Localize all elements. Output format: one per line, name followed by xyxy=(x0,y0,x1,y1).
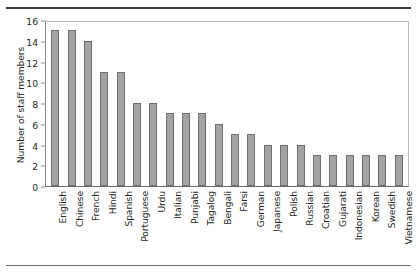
x-label-slot: Chinese xyxy=(62,189,78,265)
x-label-slot: Russian xyxy=(293,189,309,265)
bar[interactable] xyxy=(182,113,190,186)
x-axis-tick-label: Italian xyxy=(173,163,182,189)
x-label-slot: Korean xyxy=(359,189,375,265)
bar[interactable] xyxy=(215,124,223,186)
bar-chart-figure: Number of staff members 0246810121416 En… xyxy=(0,0,417,275)
bar[interactable] xyxy=(313,155,321,186)
x-axis-tick-label: Japanese xyxy=(272,150,281,189)
x-axis-tick-label: English xyxy=(58,159,67,189)
y-axis-tick-label: 10 xyxy=(26,78,38,89)
x-label-slot: Tagalog xyxy=(194,189,210,265)
x-axis-tick-label: Portuguese xyxy=(140,140,149,189)
bar[interactable] xyxy=(247,134,255,186)
x-axis-tick-label: Gujarati xyxy=(338,155,347,189)
bar[interactable] xyxy=(280,145,288,187)
x-label-slot: French xyxy=(79,189,95,265)
top-divider-rule xyxy=(6,7,411,9)
x-axis-tick-label: Croatian xyxy=(321,153,330,189)
x-axis-tick-label: French xyxy=(91,161,100,189)
x-axis-tick-label-text: Vietnamese xyxy=(404,191,413,244)
y-axis-tick-label: 14 xyxy=(26,36,38,47)
bar-slot xyxy=(162,22,178,186)
x-axis-tick-label: Punjabi xyxy=(190,158,199,189)
x-label-slot: German xyxy=(243,189,259,265)
x-axis-tick-label: Chinese xyxy=(75,155,84,189)
x-axis-tick-label: Bengali xyxy=(223,157,232,189)
x-label-slot: Punjabi xyxy=(178,189,194,265)
x-axis-tick-labels: EnglishChineseFrenchHindiSpanishPortugue… xyxy=(45,189,409,265)
y-axis-tick-label: 4 xyxy=(32,140,38,151)
bar[interactable] xyxy=(264,145,272,187)
x-label-slot: Gujarati xyxy=(326,189,342,265)
x-label-slot: Portuguese xyxy=(128,189,144,265)
x-label-slot: Croatian xyxy=(309,189,325,265)
x-axis-tick-label: Spanish xyxy=(124,155,133,189)
x-axis-tick-label: Polish xyxy=(289,165,298,189)
x-axis-tick-label: Russian xyxy=(305,156,314,189)
y-axis-tick-label: 0 xyxy=(32,182,38,193)
x-label-slot: Polish xyxy=(276,189,292,265)
x-label-slot: Vietnamese xyxy=(392,189,408,265)
x-axis-tick-label: Indonesian xyxy=(354,142,363,189)
bar[interactable] xyxy=(329,155,337,186)
x-label-slot: Italian xyxy=(161,189,177,265)
x-axis-tick-label: Urdu xyxy=(157,169,166,189)
x-axis-tick-label: Farsi xyxy=(239,170,248,189)
y-axis-tick-label: 16 xyxy=(26,16,38,27)
x-axis-tick-label: Vietnamese xyxy=(404,138,413,189)
x-label-slot: Japanese xyxy=(260,189,276,265)
bar[interactable] xyxy=(231,134,239,186)
x-label-slot: English xyxy=(46,189,62,265)
x-label-slot: Swedish xyxy=(375,189,391,265)
bottom-divider-rule xyxy=(6,265,411,266)
x-axis-tick-label: German xyxy=(256,155,265,189)
x-axis-tick-label: Korean xyxy=(371,160,380,189)
y-axis-tick-label: 8 xyxy=(32,99,38,110)
x-label-slot: Farsi xyxy=(227,189,243,265)
x-axis-tick-label: Hindi xyxy=(108,168,117,189)
x-label-slot: Bengali xyxy=(211,189,227,265)
x-axis-tick-label: Swedish xyxy=(387,154,396,189)
y-axis-tick-labels: 0246810121416 xyxy=(0,21,45,187)
x-label-slot: Spanish xyxy=(112,189,128,265)
x-axis-tick-label: Tagalog xyxy=(206,157,215,190)
bar[interactable] xyxy=(362,155,370,186)
y-axis-tick-label: 12 xyxy=(26,57,38,68)
x-label-slot: Indonesian xyxy=(342,189,358,265)
y-axis-tick-label: 2 xyxy=(32,161,38,172)
y-axis-tick-label: 6 xyxy=(32,119,38,130)
x-label-slot: Hindi xyxy=(95,189,111,265)
x-label-slot: Urdu xyxy=(145,189,161,265)
